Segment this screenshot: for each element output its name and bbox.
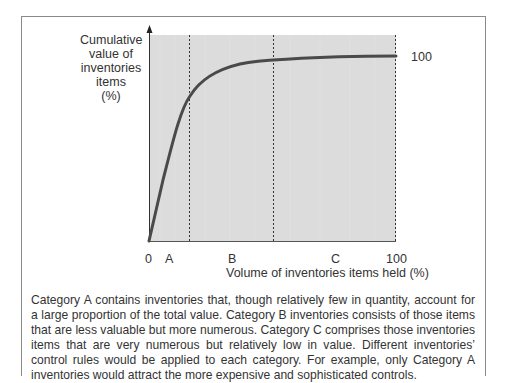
x-tick-0: 0 — [145, 252, 152, 266]
y-axis-label-line: items — [80, 75, 142, 89]
y-axis-label: Cumulative value of inventories items (%… — [80, 33, 142, 103]
y-axis-arrow-icon — [147, 25, 153, 33]
y-tick-100: 100 — [411, 50, 432, 64]
x-tick-100: 100 — [386, 252, 407, 266]
category-c-label: C — [331, 252, 340, 266]
x-axis-label: Volume of inventories items held (%) — [226, 266, 429, 280]
category-b-label: B — [228, 252, 236, 266]
plot-area — [149, 35, 396, 241]
y-axis-label-line: value of — [80, 47, 142, 61]
y-axis-label-line: inventories — [80, 61, 142, 75]
figure-caption: Category A contains inventories that, th… — [31, 293, 475, 383]
y-axis-label-line: (%) — [80, 89, 142, 103]
category-a-label: A — [165, 252, 173, 266]
y-axis-label-line: Cumulative — [80, 33, 142, 47]
